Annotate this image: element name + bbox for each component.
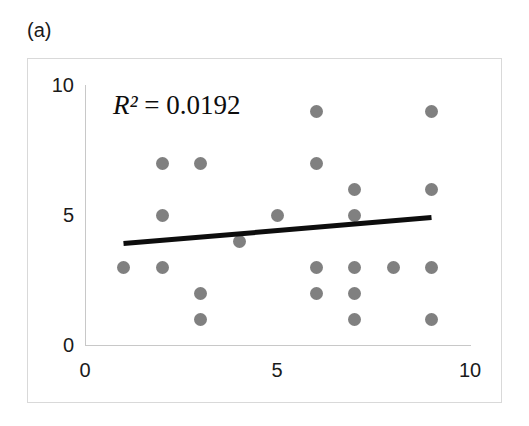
panel-label: (a)	[27, 20, 51, 40]
data-point	[117, 261, 130, 274]
data-point	[348, 183, 361, 196]
y-axis-tick-label-0: 0	[32, 335, 74, 355]
data-point	[310, 105, 323, 118]
data-point	[387, 261, 400, 274]
data-point	[194, 157, 207, 170]
data-point	[310, 157, 323, 170]
data-point	[194, 313, 207, 326]
y-axis-tick-label-5: 5	[32, 205, 74, 225]
data-point	[348, 313, 361, 326]
data-point	[194, 287, 207, 300]
x-axis-line	[85, 345, 471, 346]
data-point	[156, 261, 169, 274]
data-point	[425, 261, 438, 274]
figure-root: (a) 10 5 0 0 5 10 R² = 0.0192	[0, 0, 529, 426]
y-axis-tick-label-10: 10	[32, 75, 74, 95]
data-point	[310, 287, 323, 300]
data-point	[425, 183, 438, 196]
data-point	[310, 261, 323, 274]
data-point	[156, 157, 169, 170]
data-point	[425, 313, 438, 326]
data-point	[425, 105, 438, 118]
x-axis-tick-label-0: 0	[60, 360, 110, 380]
data-point	[348, 287, 361, 300]
data-point	[156, 209, 169, 222]
data-point	[233, 235, 246, 248]
x-axis-tick-label-10: 10	[445, 360, 495, 380]
data-point	[348, 261, 361, 274]
x-axis-tick-label-5: 5	[252, 360, 302, 380]
plot-area	[85, 85, 470, 345]
data-point	[271, 209, 284, 222]
data-point	[348, 209, 361, 222]
